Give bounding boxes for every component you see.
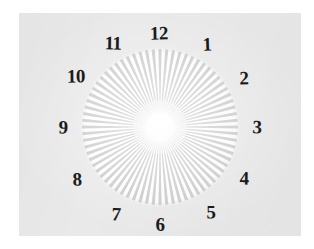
star-spoke xyxy=(170,137,217,184)
star-spoke xyxy=(172,87,228,121)
star-spoke xyxy=(138,51,156,113)
star-spoke xyxy=(173,99,234,123)
star-spoke xyxy=(86,99,147,123)
star-spoke xyxy=(82,125,146,128)
star-spoke xyxy=(152,49,159,113)
star-spoke xyxy=(174,112,237,125)
star-spoke xyxy=(145,50,158,113)
star-spoke xyxy=(168,138,206,191)
star-spoke xyxy=(171,81,224,119)
star-spoke xyxy=(132,53,156,114)
star-spoke xyxy=(82,119,146,126)
star-spoke xyxy=(109,66,152,116)
clock-numeral-8: 8 xyxy=(72,169,82,188)
star-spoke xyxy=(163,140,181,202)
clock-numeral-7: 7 xyxy=(111,204,121,223)
star-spoke xyxy=(126,140,155,199)
star-spoke xyxy=(174,125,238,128)
star-spoke xyxy=(138,140,156,202)
star-spoke xyxy=(171,136,221,179)
star-spoke xyxy=(109,138,152,188)
star-spoke xyxy=(145,141,158,204)
star-spoke xyxy=(104,137,151,184)
star-spoke xyxy=(163,51,181,113)
star-spoke xyxy=(158,141,161,205)
star-spoke xyxy=(173,105,235,123)
star-spoke xyxy=(84,105,146,123)
star-spoke xyxy=(104,71,151,118)
clock-numeral-1: 1 xyxy=(202,34,212,53)
star-spoke xyxy=(83,112,146,125)
star-spoke xyxy=(132,140,156,201)
star-spoke xyxy=(161,49,168,113)
star-spoke xyxy=(126,56,155,115)
star-spoke xyxy=(166,140,195,199)
star-disc xyxy=(80,47,240,207)
star-spoke xyxy=(120,139,154,195)
star-spoke xyxy=(168,62,206,115)
star-spoke xyxy=(82,128,146,135)
star-spoke xyxy=(89,93,148,122)
star-spoke xyxy=(99,76,149,119)
star-spoke xyxy=(174,119,238,126)
star-spoke xyxy=(92,134,148,168)
star-spoke xyxy=(89,133,148,162)
star-center-highlight xyxy=(133,100,187,154)
star-spoke xyxy=(174,129,237,142)
star-spoke xyxy=(95,81,148,119)
star-spoke xyxy=(86,132,147,156)
star-spoke xyxy=(173,132,234,156)
clock-numeral-10: 10 xyxy=(67,66,85,85)
star-spoke xyxy=(174,128,238,135)
star-spoke xyxy=(170,71,217,118)
clock-numeral-11: 11 xyxy=(104,33,121,52)
clock-numeral-2: 2 xyxy=(239,68,248,87)
star-spoke xyxy=(173,130,235,148)
star-spoke xyxy=(165,53,189,114)
star-spoke xyxy=(173,93,232,122)
star-spoke xyxy=(165,140,189,201)
star-spoke xyxy=(167,139,201,195)
star-spoke xyxy=(161,141,168,205)
star-spoke xyxy=(114,138,152,191)
star-spoke xyxy=(95,135,148,173)
star-spoke xyxy=(158,49,161,113)
clock-numeral-9: 9 xyxy=(58,117,67,136)
clock-numeral-3: 3 xyxy=(252,117,262,136)
star-spokes xyxy=(82,49,238,205)
screenshot-root: 121234567891011 xyxy=(0,0,314,249)
star-spoke xyxy=(173,133,232,162)
star-spoke xyxy=(171,135,224,173)
star-spoke xyxy=(169,138,212,188)
clock-numeral-6: 6 xyxy=(156,215,165,234)
star-spoke xyxy=(99,136,149,179)
star-center-blur xyxy=(140,107,180,147)
clock-numeral-5: 5 xyxy=(206,202,215,221)
star-spoke xyxy=(172,134,228,168)
star-spoke xyxy=(171,76,221,119)
star-spoke xyxy=(83,129,146,142)
star-spoke xyxy=(166,56,195,115)
star-spoke xyxy=(162,50,175,113)
star-spoke xyxy=(169,66,212,116)
star-spoke xyxy=(92,87,148,121)
clock-numeral-12: 12 xyxy=(150,23,168,42)
star-spoke xyxy=(162,141,175,204)
star-spoke xyxy=(167,59,201,115)
star-spoke xyxy=(120,59,154,115)
star-spoke xyxy=(114,62,152,115)
clock-numeral-4: 4 xyxy=(239,168,248,187)
star-spoke xyxy=(84,130,146,148)
star-spoke xyxy=(152,141,159,205)
